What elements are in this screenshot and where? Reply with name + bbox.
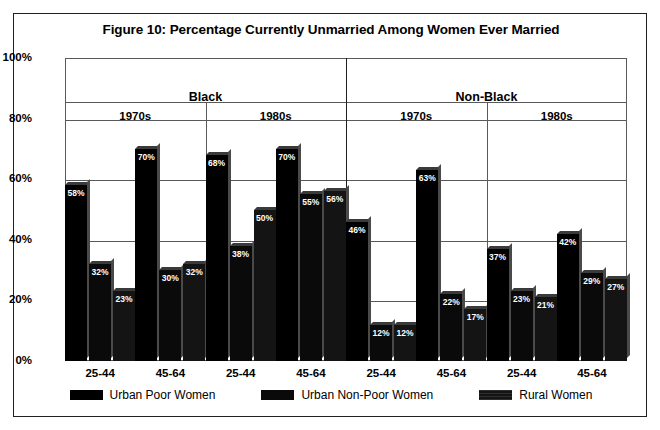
bar: 29% xyxy=(581,273,603,361)
legend-swatch xyxy=(261,390,294,400)
y-axis-tick-label: 40% xyxy=(0,233,32,245)
bar-value-label: 32% xyxy=(89,267,111,277)
bar: 23% xyxy=(511,291,533,361)
legend-swatch xyxy=(70,390,103,400)
decade-label-black-1980s: 1980s xyxy=(206,110,347,122)
chart-title: Figure 10: Percentage Currently Unmarrie… xyxy=(14,22,648,37)
bar-value-label: 37% xyxy=(487,252,509,262)
bar-value-label: 55% xyxy=(300,197,322,207)
bar-value-label: 42% xyxy=(557,237,579,247)
bar: 23% xyxy=(113,291,135,361)
bar-value-label: 30% xyxy=(159,273,181,283)
bar-value-label: 12% xyxy=(394,328,416,338)
decade-label-non-black-1980s: 1980s xyxy=(487,110,628,122)
y-axis-tick-label: 0% xyxy=(0,354,32,366)
decade-label-non-black-1970s: 1970s xyxy=(346,110,487,122)
legend-item: Urban Poor Women xyxy=(70,388,216,402)
bar-value-label: 58% xyxy=(65,188,87,198)
bar: 12% xyxy=(370,325,392,361)
bar: 21% xyxy=(535,297,557,361)
bar: 56% xyxy=(324,191,346,361)
bar-value-label: 70% xyxy=(135,152,157,162)
x-axis-tick-label: 45-64 xyxy=(557,367,627,379)
bar-value-label: 68% xyxy=(206,158,228,168)
bar-value-label: 23% xyxy=(511,294,533,304)
bar-value-label: 23% xyxy=(113,294,135,304)
bar-top-face xyxy=(487,246,512,249)
chart-legend: Urban Poor WomenUrban Non-Poor WomenRura… xyxy=(14,388,648,402)
bar: 38% xyxy=(230,246,252,361)
legend-label: Rural Women xyxy=(519,388,592,402)
y-axis-tick-label: 60% xyxy=(0,172,32,184)
bar: 32% xyxy=(89,264,111,361)
x-axis-tick-label: 45-64 xyxy=(416,367,486,379)
bar: 32% xyxy=(183,264,205,361)
bar-value-label: 17% xyxy=(464,312,486,322)
figure-frame: Figure 10: Percentage Currently Unmarrie… xyxy=(13,13,647,417)
bar: 30% xyxy=(159,270,181,361)
bar-top-face xyxy=(511,288,536,291)
bar: 63% xyxy=(416,170,438,361)
bar-value-label: 46% xyxy=(346,225,368,235)
bar-top-face xyxy=(254,207,279,210)
y-axis-tick-label: 80% xyxy=(0,112,32,124)
bar: 50% xyxy=(254,210,276,362)
bar-value-label: 22% xyxy=(440,297,462,307)
legend-swatch xyxy=(479,390,512,400)
x-axis-tick-label: 45-64 xyxy=(135,367,205,379)
y-axis-tick-label: 20% xyxy=(0,293,32,305)
bar-top-face xyxy=(206,152,231,155)
legend-item: Urban Non-Poor Women xyxy=(261,388,433,402)
x-axis-tick-label: 25-44 xyxy=(206,367,276,379)
bar-value-label: 32% xyxy=(183,267,205,277)
bar: 37% xyxy=(487,249,509,361)
bar: 58% xyxy=(65,185,87,361)
x-axis-tick-label: 25-44 xyxy=(65,367,135,379)
bar-value-label: 12% xyxy=(370,328,392,338)
bar-value-label: 27% xyxy=(605,282,627,292)
bar-top-face xyxy=(230,243,255,246)
bar: 68% xyxy=(206,155,228,361)
legend-label: Urban Poor Women xyxy=(110,388,216,402)
bar-value-label: 50% xyxy=(254,213,276,223)
bar-value-label: 56% xyxy=(324,194,346,204)
decade-label-black-1970s: 1970s xyxy=(65,110,206,122)
legend-label: Urban Non-Poor Women xyxy=(301,388,433,402)
y-axis-tick-label: 100% xyxy=(0,51,32,63)
bar: 17% xyxy=(464,309,486,361)
x-axis-tick-label: 45-64 xyxy=(276,367,346,379)
bar: 42% xyxy=(557,234,579,361)
bar-value-label: 29% xyxy=(581,276,603,286)
bar-value-label: 63% xyxy=(416,173,438,183)
bar: 70% xyxy=(276,149,298,361)
bar: 22% xyxy=(440,294,462,361)
bar: 46% xyxy=(346,222,368,361)
bar: 70% xyxy=(135,149,157,361)
bar-value-label: 38% xyxy=(230,249,252,259)
x-axis-tick-label: 25-44 xyxy=(346,367,416,379)
legend-item: Rural Women xyxy=(479,388,592,402)
bar: 55% xyxy=(300,194,322,361)
bar-side-face xyxy=(627,273,630,358)
x-axis-tick-label: 25-44 xyxy=(487,367,557,379)
bar: 12% xyxy=(394,325,416,361)
bar-value-label: 21% xyxy=(535,300,557,310)
bar-top-face xyxy=(535,294,560,297)
bar: 27% xyxy=(605,279,627,361)
bar-value-label: 70% xyxy=(276,152,298,162)
